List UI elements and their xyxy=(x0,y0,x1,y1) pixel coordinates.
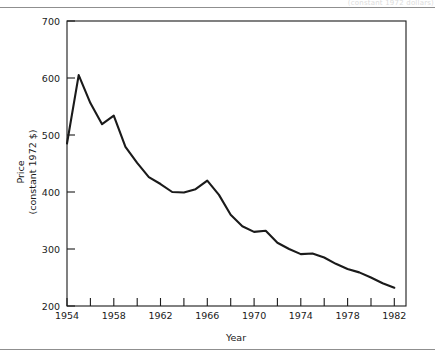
x-tick-label-1982: 1982 xyxy=(382,310,406,321)
x-tick-label-1974: 1974 xyxy=(289,310,313,321)
x-tick-label-1962: 1962 xyxy=(148,310,172,321)
bottom-divider-rule xyxy=(0,349,435,350)
y-tick-label-700: 700 xyxy=(42,16,60,27)
x-tick-label-1970: 1970 xyxy=(242,310,266,321)
x-tick-label-1966: 1966 xyxy=(195,310,219,321)
y-axis-title-line2: (constant 1972 $) xyxy=(27,130,38,215)
x-tick-label-1954: 1954 xyxy=(55,310,79,321)
figure-container: (constant 1972 dollars) 700 600 500 400 … xyxy=(0,0,435,358)
x-axis-ticks xyxy=(67,298,394,306)
y-tick-label-400: 400 xyxy=(42,187,60,198)
y-axis-title-group: Price (constant 1972 $) xyxy=(15,130,38,215)
y-tick-label-600: 600 xyxy=(42,73,60,84)
line-chart-plot: 700 600 500 400 300 200 1954 1958 1962 xyxy=(0,0,435,358)
y-axis-ticks xyxy=(67,21,75,306)
y-tick-label-300: 300 xyxy=(42,244,60,255)
price-series-line xyxy=(67,75,394,288)
x-tick-label-1958: 1958 xyxy=(102,310,126,321)
x-tick-label-1978: 1978 xyxy=(336,310,360,321)
y-axis-title-line1: Price xyxy=(15,160,26,183)
y-tick-label-500: 500 xyxy=(42,130,60,141)
x-axis-title: Year xyxy=(225,332,246,343)
plot-frame xyxy=(67,21,406,306)
